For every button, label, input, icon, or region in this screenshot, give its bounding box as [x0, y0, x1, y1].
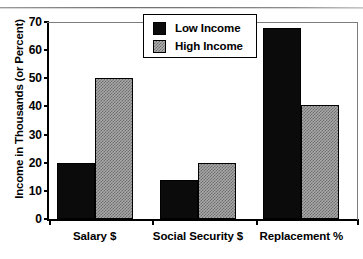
y-tick-label: 10 — [6, 184, 49, 198]
bar-high-income — [95, 78, 133, 219]
bar-low-income — [263, 28, 301, 219]
y-tick-label: 20 — [6, 156, 49, 170]
chart-legend: Low Income High Income — [143, 14, 257, 58]
x-tick-mark — [49, 219, 51, 225]
bar-high-income — [198, 163, 236, 219]
x-axis-category-label: Social Security $ — [153, 230, 243, 242]
y-tick-mark — [44, 21, 49, 23]
y-tick-mark — [44, 49, 49, 51]
legend-swatch-low-income — [153, 22, 166, 35]
x-tick-mark — [152, 219, 154, 225]
x-axis-category-label: Salary $ — [73, 230, 116, 242]
y-tick-mark — [44, 77, 49, 79]
y-tick-label: 40 — [6, 99, 49, 113]
bar-low-income — [57, 163, 95, 219]
bar-high-income — [301, 105, 339, 219]
legend-swatch-high-income — [153, 40, 166, 53]
bar-chart-figure: Income in Thousands (or Percent) 0102030… — [0, 0, 363, 259]
legend-item-low-income: Low Income — [153, 20, 256, 36]
bar-low-income — [160, 180, 198, 219]
y-tick-mark — [44, 105, 49, 107]
x-tick-mark — [357, 219, 359, 225]
legend-item-high-income: High Income — [153, 38, 256, 54]
y-tick-label: 50 — [6, 71, 49, 85]
y-tick-mark — [44, 134, 49, 136]
y-tick-label: 70 — [6, 15, 49, 29]
y-tick-label: 60 — [6, 43, 49, 57]
x-tick-mark — [256, 219, 258, 225]
x-axis-category-label: Replacement % — [259, 230, 343, 242]
y-tick-label: 0 — [6, 212, 49, 226]
legend-label-low-income: Low Income — [175, 22, 240, 34]
y-tick-mark — [44, 162, 49, 164]
legend-label-high-income: High Income — [175, 40, 243, 52]
y-tick-label: 30 — [6, 128, 49, 142]
y-tick-mark — [44, 190, 49, 192]
